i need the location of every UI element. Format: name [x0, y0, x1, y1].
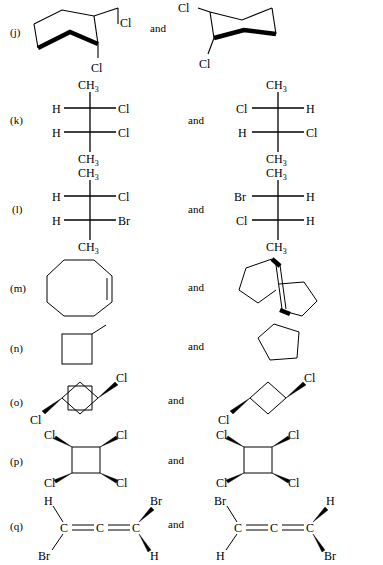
- atom-label-h-top-right: H: [326, 494, 335, 508]
- atom-label-top: CH3: [266, 78, 287, 94]
- row-q: (q) and C C C H Br Br: [0, 490, 383, 565]
- and-label-q: and: [168, 518, 184, 530]
- atom-label-cl-top-right: Cl: [304, 371, 316, 385]
- atom-label-c1-left: H: [52, 190, 61, 204]
- atom-label-c1-left: H: [52, 102, 61, 116]
- structure-j-left: Cl Cl: [32, 2, 152, 76]
- atom-label-c2: C: [270, 521, 278, 535]
- row-l: (l) and CH3 H Cl H Br CH3 CH3 Br: [0, 166, 383, 256]
- atom-label-cl-upper: Cl: [178, 1, 190, 15]
- row-j: (j) and Cl Cl: [0, 0, 383, 78]
- atom-label-bottom: CH3: [78, 240, 99, 256]
- atom-label-h-bottom-left: H: [216, 549, 225, 563]
- atom-label-cl-bottom-right: Cl: [288, 476, 300, 490]
- atom-label-cl-lower: Cl: [91, 61, 103, 75]
- atom-label-c2-right: Cl: [118, 126, 130, 140]
- atom-label-c2-left: H: [52, 126, 61, 140]
- atom-label-top: CH3: [78, 166, 99, 182]
- structure-k-left: CH3 H Cl H Cl CH3: [40, 78, 150, 166]
- structure-p-right: Cl Cl Cl Cl: [216, 430, 316, 488]
- atom-label-top: CH3: [266, 166, 287, 182]
- atom-label-c2-right: Cl: [306, 126, 318, 140]
- row-label-j: (j): [10, 26, 20, 38]
- atom-label-cl-lower: Cl: [199, 57, 211, 71]
- atom-label-br-top-left: Br: [214, 494, 226, 508]
- atom-label-c1: C: [60, 521, 68, 535]
- row-label-n: (n): [10, 342, 23, 354]
- structure-q-right-allene: C C C Br H H Br: [212, 492, 342, 562]
- atom-label-c2-right: Br: [118, 214, 130, 228]
- atom-label-br-bottom-left: Br: [38, 549, 50, 563]
- and-label-p: and: [168, 454, 184, 466]
- atom-label-c1-left: Cl: [236, 102, 248, 116]
- structure-o-right: Cl Cl: [228, 372, 328, 428]
- atom-label-br-top-right: Br: [150, 494, 162, 508]
- atom-label-h-bottom-right: H: [150, 549, 159, 563]
- atom-label-cl-top-right: Cl: [116, 371, 128, 385]
- structure-k-right: CH3 Cl H H Cl CH3: [228, 78, 338, 166]
- atom-label-cl-top-left: Cl: [216, 428, 228, 442]
- atom-label-bottom: CH3: [266, 240, 287, 256]
- structure-l-left: CH3 H Cl H Br CH3: [40, 166, 150, 256]
- row-label-o: (o): [10, 396, 23, 408]
- atom-label-c2-left: H: [238, 126, 247, 140]
- atom-label-c3: C: [306, 521, 314, 535]
- row-o: (o) and Cl Cl Cl Cl: [0, 372, 383, 428]
- atom-label-c1-right: H: [306, 102, 315, 116]
- atom-label-c2-right: H: [306, 214, 315, 228]
- structure-m-right-bicyclic-alkene: [224, 256, 334, 322]
- atom-label-cl-bottom-left: Cl: [216, 476, 228, 490]
- row-k: (k) and CH3 H Cl H Cl CH3: [0, 78, 383, 166]
- row-label-k: (k): [10, 114, 23, 126]
- atom-label-cl-top-left: Cl: [44, 428, 56, 442]
- row-label-p: (p): [10, 455, 23, 467]
- atom-label-br-bottom-right: Br: [324, 549, 336, 563]
- row-label-l: (l): [12, 203, 22, 215]
- row-n: (n) and: [0, 322, 383, 372]
- structure-n-left-methylcyclobutane: [58, 324, 128, 370]
- and-label-m: and: [188, 281, 204, 293]
- and-label-n: and: [188, 340, 204, 352]
- atom-label-cl-bottom-right: Cl: [116, 476, 128, 490]
- structure-l-right: CH3 Br H Cl H CH3: [228, 166, 338, 256]
- atom-label-cl-bottom-left: Cl: [218, 413, 230, 427]
- structure-n-right-cyclopentane: [252, 322, 322, 368]
- atom-label-c3: C: [132, 521, 140, 535]
- atom-label-cl-top-right: Cl: [116, 428, 128, 442]
- and-label-k: and: [188, 114, 204, 126]
- structure-m-left-cyclooctene: [44, 258, 124, 320]
- structure-q-left-allene: C C C H Br Br H: [38, 492, 168, 562]
- row-p: (p) and Cl Cl Cl Cl: [0, 428, 383, 490]
- atom-label-cl-top-right: Cl: [288, 428, 300, 442]
- structure-p-left: Cl Cl Cl Cl: [44, 430, 144, 488]
- row-m: (m) and: [0, 256, 383, 322]
- atom-label-c1: C: [234, 521, 242, 535]
- atom-label-cl-upper: Cl: [120, 16, 132, 30]
- atom-label-c1-right: Cl: [118, 190, 130, 204]
- and-label-l: and: [188, 203, 204, 215]
- row-label-m: (m): [10, 282, 26, 294]
- and-label-j: and: [150, 22, 166, 34]
- atom-label-c1-left: Br: [234, 190, 246, 204]
- atom-label-cl-bottom-left: Cl: [44, 476, 56, 490]
- figure-canvas: (j) and Cl Cl: [0, 0, 383, 565]
- atom-label-c2: C: [96, 521, 104, 535]
- row-label-q: (q): [10, 520, 23, 532]
- atom-label-cl-bottom-left: Cl: [30, 413, 42, 427]
- atom-label-c2-left: H: [52, 214, 61, 228]
- atom-label-h-top-left: H: [44, 494, 53, 508]
- atom-label-c1-right: Cl: [118, 102, 130, 116]
- and-label-o: and: [168, 394, 184, 406]
- atom-label-top: CH3: [78, 78, 99, 94]
- atom-label-c2-left: Cl: [236, 214, 248, 228]
- structure-o-left: Cl Cl: [40, 372, 140, 428]
- structure-j-right: Cl Cl: [196, 2, 316, 76]
- atom-label-c1-right: H: [306, 190, 315, 204]
